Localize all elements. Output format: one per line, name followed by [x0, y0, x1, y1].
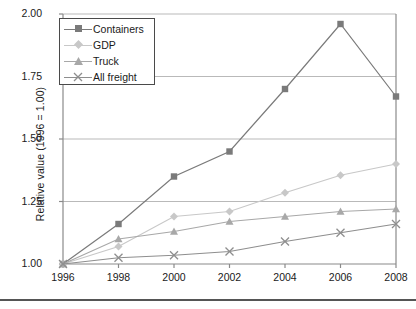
page-divider-rule	[0, 299, 416, 301]
data-point-containers	[282, 86, 288, 92]
data-point-gdp	[392, 160, 400, 168]
series-line-truck	[63, 209, 396, 264]
data-point-gdp	[281, 189, 289, 197]
relative-value-line-chart: Relative value (1996 = 1.00) 1.001.251.5…	[0, 0, 416, 309]
data-point-containers	[171, 173, 177, 179]
y-tick-label: 1.50	[8, 133, 42, 144]
x-tick-label: 2008	[373, 271, 416, 283]
x-tick-label: 2006	[318, 271, 364, 283]
data-point-gdp	[337, 171, 345, 179]
legend-marker-cross-icon	[64, 71, 92, 83]
x-tick-label: 1998	[96, 271, 142, 283]
legend-label-containers: Containers	[92, 23, 144, 35]
y-tick-label: 1.00	[8, 258, 42, 269]
data-point-containers	[226, 148, 232, 154]
chart-legend: Containers GDP Truck All freight	[59, 18, 155, 85]
legend-marker-diamond-icon	[64, 39, 92, 51]
x-tick-label: 2004	[262, 271, 308, 283]
x-tick-label: 2002	[207, 271, 253, 283]
legend-item-gdp: GDP	[64, 37, 116, 53]
legend-label-all-freight: All freight	[92, 71, 137, 83]
data-point-containers	[115, 221, 121, 227]
data-point-containers	[337, 21, 343, 27]
legend-label-truck: Truck	[92, 55, 119, 67]
x-axis-tick-labels: 1996199820002002200420062008	[0, 271, 416, 287]
data-point-gdp	[115, 243, 123, 251]
legend-marker-triangle-icon	[64, 55, 92, 67]
y-tick-label: 1.75	[8, 71, 42, 82]
x-tick-label: 2000	[151, 271, 197, 283]
legend-item-all-freight: All freight	[64, 69, 137, 85]
data-point-gdp	[170, 213, 178, 221]
y-tick-label: 2.00	[8, 8, 42, 19]
legend-item-truck: Truck	[64, 53, 119, 69]
legend-marker-square-icon	[64, 23, 92, 35]
legend-item-containers: Containers	[64, 21, 144, 37]
data-point-gdp	[226, 208, 234, 216]
series-line-all-freight	[63, 224, 396, 264]
legend-label-gdp: GDP	[92, 39, 116, 51]
data-point-containers	[393, 93, 399, 99]
x-tick-label: 1996	[40, 271, 86, 283]
y-tick-label: 1.25	[8, 196, 42, 207]
